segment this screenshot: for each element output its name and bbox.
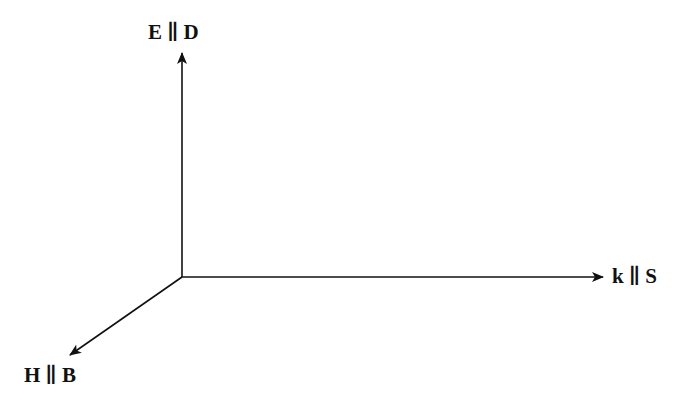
vertical-axis-label: E ∥ D xyxy=(148,22,199,43)
horizontal-axis-label: k ∥ S xyxy=(612,266,657,287)
diagonal-axis-arrow xyxy=(70,277,182,355)
axes-diagram xyxy=(0,0,698,400)
diagonal-axis-label: H ∥ B xyxy=(24,365,76,386)
